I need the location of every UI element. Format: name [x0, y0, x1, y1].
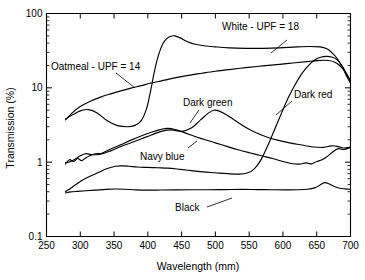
x-tick-label: 600	[275, 240, 292, 251]
x-tick-label: 450	[173, 240, 190, 251]
x-tick-label: 350	[106, 240, 123, 251]
y-tick-label: 100	[26, 8, 43, 19]
chart-canvas: 0.1110100 250300350400450500550600650700…	[0, 0, 365, 280]
y-tick-label: 1	[37, 157, 43, 168]
x-tick-label: 300	[72, 240, 89, 251]
y-tick-label: 10	[31, 82, 43, 93]
x-tick-label: 550	[241, 240, 258, 251]
series-label-dark-red: Dark red	[294, 89, 332, 100]
x-tick-label: 700	[342, 240, 359, 251]
x-tick-label: 500	[207, 240, 224, 251]
x-axis-title: Wavelength (mm)	[157, 260, 239, 272]
x-tick-label: 250	[38, 240, 55, 251]
series-label-black: Black	[175, 202, 200, 213]
x-tick-label: 650	[308, 240, 325, 251]
series-label-oatmeal: Oatmeal - UPF = 14	[51, 61, 141, 72]
chart-background	[0, 0, 365, 280]
transmission-spectra-chart: 0.1110100 250300350400450500550600650700…	[0, 0, 365, 280]
series-label-white: White - UPF = 18	[222, 21, 299, 32]
x-tick-label: 400	[139, 240, 156, 251]
series-label-dark-green: Dark green	[183, 97, 232, 108]
y-axis-title: Transmission (%)	[4, 87, 16, 168]
series-label-navy-blue: Navy blue	[140, 151, 185, 162]
